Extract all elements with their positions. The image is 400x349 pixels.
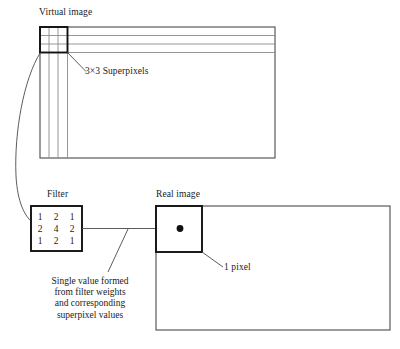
filter-label: Filter: [47, 189, 68, 200]
caption-line-4: superpixel values: [28, 310, 152, 321]
pixel-dot: [177, 225, 184, 232]
filter-cell-r2c2: 1: [65, 236, 79, 246]
caption-line-1: Single value formed: [28, 276, 152, 287]
filter-cell-r0c0: 1: [33, 212, 47, 222]
real-image-label: Real image: [156, 189, 200, 200]
caption-line-2: from filter weights: [28, 287, 152, 298]
one-pixel-label: 1 pixel: [224, 262, 251, 273]
filter-cell-r1c2: 2: [65, 224, 79, 234]
filter-cell-r1c1: 4: [49, 224, 63, 234]
filter-cell-r0c1: 2: [49, 212, 63, 222]
superpixels-label: 3×3 Superpixels: [85, 66, 149, 77]
caption-line-3: and corresponding: [28, 298, 152, 309]
filter-cell-r2c1: 2: [49, 236, 63, 246]
virtual-image-label: Virtual image: [39, 7, 92, 18]
superpixel-to-filter-curve: [16, 53, 41, 223]
virtual-image-rect: [40, 27, 275, 158]
caption-leader-line: [108, 229, 128, 272]
caption-block: Single value formed from filter weights …: [28, 276, 152, 321]
filter-cell-r0c2: 1: [65, 212, 79, 222]
filter-cell-r1c0: 2: [33, 224, 47, 234]
superpixel-filter-diagram: Virtual image 3×3 Superpixels Filter Rea…: [0, 0, 400, 349]
filter-cell-r2c0: 1: [33, 236, 47, 246]
